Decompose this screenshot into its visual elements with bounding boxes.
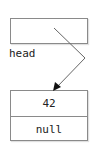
head-label: head — [9, 47, 36, 60]
node-next-cell: null — [11, 116, 87, 142]
node-data-cell: 42 — [11, 91, 87, 116]
head-pointer-box — [10, 18, 88, 44]
list-node: 42 null — [10, 90, 88, 141]
